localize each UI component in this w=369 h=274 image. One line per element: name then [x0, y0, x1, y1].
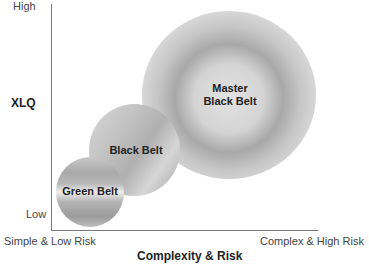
x-axis-low-label: Simple & Low Risk [4, 235, 96, 247]
master-label-line1: Master [203, 82, 256, 95]
x-axis-title: Complexity & Risk [137, 249, 242, 263]
y-axis-line [51, 4, 52, 230]
x-axis-line [51, 230, 318, 231]
master-black-belt-label: Master Black Belt [203, 82, 256, 108]
black-belt-label: Black Belt [109, 144, 162, 157]
green-belt-label: Green Belt [62, 185, 118, 198]
y-axis-low-label: Low [26, 208, 46, 220]
y-axis-high-label: High [13, 0, 36, 12]
master-label-line2: Black Belt [203, 95, 256, 108]
x-axis-high-label: Complex & High Risk [260, 235, 364, 247]
y-axis-title: XLQ [11, 96, 36, 110]
